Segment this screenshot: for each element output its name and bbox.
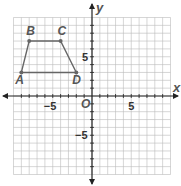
coordinate-plane: xyO−555−5ABCD	[0, 0, 181, 186]
point-label-a: A	[14, 73, 24, 87]
y-arrow-down-icon	[89, 179, 95, 185]
point-label-c: C	[58, 24, 67, 38]
point-label-b: B	[26, 24, 35, 38]
y-axis-label: y	[95, 0, 104, 15]
origin-label: O	[81, 97, 91, 111]
point-c	[59, 39, 63, 43]
y-arrow-up-icon	[89, 3, 95, 9]
x-arrow-left-icon	[2, 93, 8, 99]
x-tick-label: −5	[44, 100, 57, 112]
x-tick-label: 5	[128, 100, 134, 112]
x-axis-label: x	[172, 80, 181, 95]
point-b	[27, 39, 31, 43]
y-tick-label: 5	[82, 51, 88, 63]
point-label-d: D	[72, 73, 81, 87]
y-tick-label: −5	[75, 129, 88, 141]
